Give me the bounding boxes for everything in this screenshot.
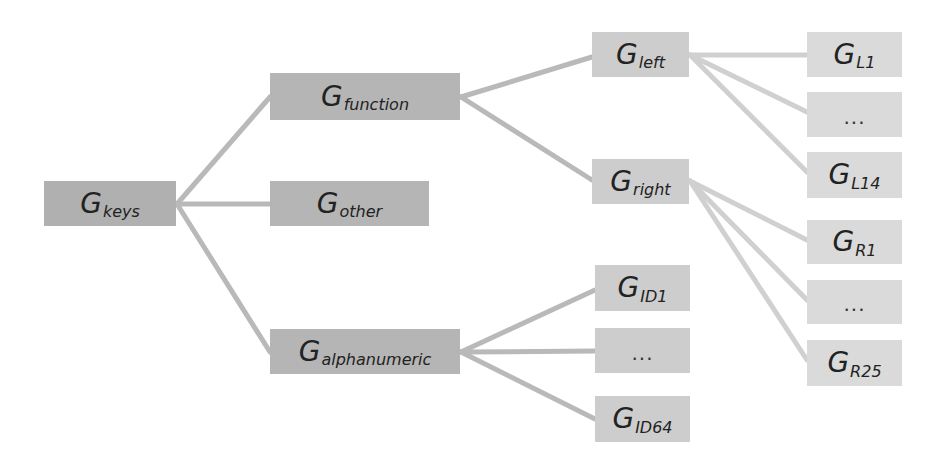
node-g-id1: GID1 xyxy=(595,265,690,311)
node-base: G xyxy=(299,338,321,366)
node-base: G xyxy=(618,274,640,302)
node-g-alphanumeric: Galphanumeric xyxy=(270,329,460,374)
node-g-r1: GR1 xyxy=(807,220,902,264)
ellipsis-label: ... xyxy=(843,105,865,129)
node-subscript: ID1 xyxy=(640,287,667,306)
node-g-function: Gfunction xyxy=(270,73,460,120)
node-subscript: R25 xyxy=(850,362,881,381)
node-subscript: keys xyxy=(103,202,140,221)
edge-keys-function xyxy=(177,97,270,204)
node-subscript: L1 xyxy=(856,53,875,72)
node-base: G xyxy=(317,190,339,218)
node-r-ellipsis: ... xyxy=(807,280,902,324)
node-g-id64: GID64 xyxy=(595,396,690,442)
edge-alphanumeric-id64 xyxy=(461,352,595,419)
node-g-l1: GL1 xyxy=(807,32,902,77)
edge-alphanumeric-id-ellipsis xyxy=(461,351,595,352)
node-subscript: function xyxy=(344,95,409,114)
node-base: G xyxy=(833,228,855,256)
node-base: G xyxy=(829,161,851,189)
edge-right-r-ellipsis xyxy=(690,181,807,300)
node-id-ellipsis: ... xyxy=(595,328,690,373)
node-g-other: Gother xyxy=(270,181,429,226)
node-g-keys: Gkeys xyxy=(44,181,176,226)
node-base: G xyxy=(321,83,343,111)
node-subscript: left xyxy=(639,53,665,72)
node-subscript: right xyxy=(633,180,671,199)
node-subscript: R1 xyxy=(855,241,876,260)
node-g-right: Gright xyxy=(592,159,689,204)
ellipsis-label: ... xyxy=(631,341,653,365)
node-g-left: Gleft xyxy=(592,32,689,77)
node-base: G xyxy=(834,41,856,69)
ellipsis-label: ... xyxy=(843,292,865,316)
node-subscript: alphanumeric xyxy=(321,350,431,369)
node-g-r25: GR25 xyxy=(807,340,902,386)
edge-left-l-ellipsis xyxy=(690,55,807,112)
edge-function-right xyxy=(461,97,592,180)
node-g-l14: GL14 xyxy=(807,152,902,198)
node-subscript: other xyxy=(340,202,383,221)
edge-keys-alphanumeric xyxy=(177,204,270,352)
node-l-ellipsis: ... xyxy=(807,92,902,137)
node-subscript: L14 xyxy=(851,174,880,193)
edge-alphanumeric-id1 xyxy=(461,290,595,352)
edge-left-l14 xyxy=(690,55,807,172)
node-base: G xyxy=(827,349,849,377)
node-subscript: ID64 xyxy=(635,418,672,437)
node-base: G xyxy=(80,190,102,218)
node-base: G xyxy=(612,405,634,433)
node-base: G xyxy=(610,168,632,196)
tree-edges xyxy=(0,0,946,473)
node-base: G xyxy=(616,41,638,69)
edge-function-left xyxy=(461,57,592,97)
